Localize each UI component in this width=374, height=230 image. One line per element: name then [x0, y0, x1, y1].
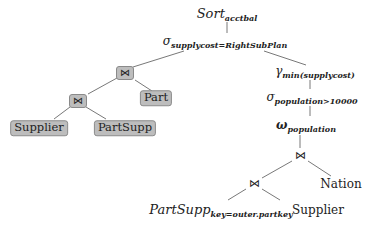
edge-select-gamma: [264, 51, 306, 65]
edge-join-nation: [308, 161, 331, 176]
omega-symbol: ω: [276, 118, 287, 132]
part-label: Part: [144, 90, 168, 104]
partsupp-left-node: PartSupp: [94, 120, 156, 136]
join-right-lower: ⋈: [249, 178, 260, 189]
nation-label: Nation: [320, 177, 361, 191]
sort-node: Sortacctbal: [197, 7, 258, 22]
supplier-label: Supplier: [292, 203, 344, 217]
select-supplycost-node: σsupplycost=RightSubPlan: [163, 35, 288, 49]
join-lower-left: ⋈: [69, 94, 87, 108]
supplier-label: Supplier: [14, 120, 64, 134]
edge-join-join: [88, 78, 117, 94]
edge-join-partsupp2: [228, 189, 246, 200]
gamma-node: γmin(supplycost): [275, 65, 355, 79]
nation-node: Nation: [320, 178, 361, 190]
population-condition: population>10000: [275, 96, 358, 106]
edge-join-supplier2: [262, 189, 280, 200]
sigma-symbol: σ: [266, 90, 274, 104]
join-icon: ⋈: [249, 177, 260, 190]
sigma-symbol: σ: [163, 34, 171, 48]
select-population-node: σpopulation>10000: [266, 91, 357, 105]
join-icon: ⋈: [73, 95, 83, 106]
partsupp-label: PartSupp: [149, 202, 210, 217]
supplier-left-node: Supplier: [10, 120, 68, 136]
edge-select-join: [133, 51, 184, 67]
supplier-right-node: Supplier: [292, 204, 344, 216]
partsupp-label: PartSupp: [98, 120, 152, 134]
join-icon: ⋈: [295, 149, 306, 162]
sort-label: Sort: [197, 6, 225, 21]
join-top-left: ⋈: [116, 66, 134, 80]
join-right-top: ⋈: [295, 150, 306, 161]
join-icon: ⋈: [120, 67, 130, 78]
edge-join-join2: [262, 161, 292, 178]
partsupp-key: key=outer.partkey: [211, 209, 293, 219]
omega-attribute: population: [287, 124, 335, 134]
gamma-aggregate: min(supplycost): [282, 70, 355, 80]
part-node: Part: [140, 90, 172, 106]
sort-sub: acctbal: [225, 13, 257, 23]
omega-node: ωpopulation: [276, 119, 336, 133]
edge-join-partsupp: [86, 107, 106, 119]
edge-join-supplier: [54, 107, 70, 119]
partsupp-right-node: PartSuppkey=outer.partkey: [149, 203, 292, 218]
select-condition: supplycost=RightSubPlan: [171, 40, 287, 50]
